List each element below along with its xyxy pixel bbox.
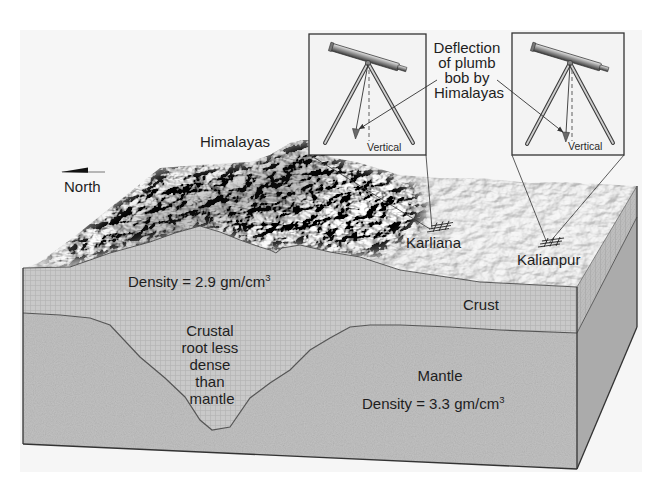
diagram-canvas: North Himalayas Karliana Kalianpur xyxy=(0,0,661,487)
isostasy-diagram: North Himalayas Karliana Kalianpur xyxy=(0,0,661,487)
kalianpur-label: Kalianpur xyxy=(517,251,580,268)
vertical-label: Vertical xyxy=(367,141,401,153)
crust-density-label: Density = 2.9 gm/cm3 xyxy=(128,272,270,290)
karliana-label: Karliana xyxy=(406,234,462,251)
north-arrow: North xyxy=(61,168,105,196)
inset-karliana: Vertical xyxy=(309,34,426,155)
vertical-label: Vertical xyxy=(568,140,602,152)
inset-kalianpur: Vertical xyxy=(512,33,624,155)
mantle-label: Mantle xyxy=(417,367,462,384)
mantle-density-label: Density = 3.3 gm/cm3 xyxy=(362,394,504,412)
deflection-note-text: Deflection of plumb bob by Himalayas xyxy=(434,39,505,101)
crust-label: Crust xyxy=(463,296,500,313)
north-label: North xyxy=(64,178,101,195)
himalayas-label: Himalayas xyxy=(200,133,270,150)
crustal-root-label: Crustal root less dense than mantle xyxy=(182,322,243,407)
